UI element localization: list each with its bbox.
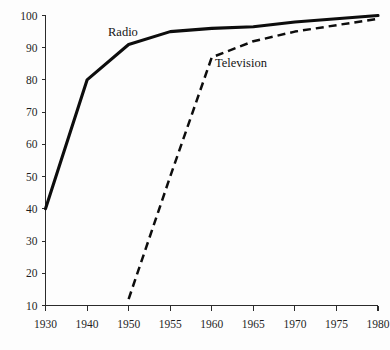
- y-tick-label: 90: [26, 42, 38, 54]
- x-tick-label: 1950: [117, 318, 140, 330]
- series-label-television: Television: [215, 56, 268, 70]
- y-tick-label: 100: [20, 10, 38, 22]
- y-tick-label: 70: [26, 106, 38, 118]
- y-axis-ticks: 102030405060708090100: [20, 10, 45, 312]
- series-group: [46, 16, 379, 300]
- x-tick-label: 1965: [242, 318, 265, 330]
- x-axis-ticks: 193019401950195519601965197019751980: [34, 306, 390, 330]
- x-tick-label: 1955: [159, 318, 182, 330]
- x-tick-label: 1980: [367, 318, 390, 330]
- series-line-radio: [46, 16, 379, 209]
- y-tick-label: 20: [26, 267, 38, 279]
- y-tick-label: 40: [26, 203, 38, 215]
- y-tick-label: 50: [26, 171, 38, 183]
- series-label-radio: Radio: [108, 25, 138, 39]
- x-tick-label: 1960: [200, 318, 223, 330]
- x-tick-label: 1930: [34, 318, 57, 330]
- y-tick-label: 10: [26, 300, 38, 312]
- x-tick-label: 1975: [325, 318, 348, 330]
- chart-canvas: 102030405060708090100 193019401950195519…: [0, 0, 390, 350]
- y-tick-label: 30: [26, 235, 38, 247]
- x-tick-label: 1970: [283, 318, 306, 330]
- line-chart: 102030405060708090100 193019401950195519…: [0, 0, 390, 350]
- y-tick-label: 60: [26, 138, 38, 150]
- x-tick-label: 1940: [76, 318, 99, 330]
- y-tick-label: 80: [26, 74, 38, 86]
